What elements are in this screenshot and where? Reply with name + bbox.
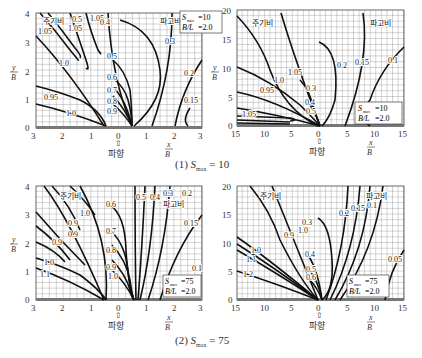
svg-text:1.0: 1.0 (274, 76, 284, 85)
diffraction-diagram: 주기비 0.5 1.05 1.05 1.05 0.4 1.0 0.95 1.0 … (0, 0, 422, 358)
svg-text:1.05: 1.05 (68, 24, 82, 33)
plot-smax75-far: 주기비 0.3 1.0 0.9 1.0 1.1 1.2 0.4 0.5 0.6 … (222, 182, 408, 332)
svg-text:주기비: 주기비 (60, 192, 81, 201)
svg-text:2: 2 (60, 131, 65, 141)
svg-text:1.1: 1.1 (246, 255, 256, 264)
svg-text:B/L: B/L (358, 114, 370, 123)
svg-text:0.05: 0.05 (388, 255, 402, 264)
svg-text:0.3: 0.3 (306, 84, 316, 93)
svg-text:0.6: 0.6 (306, 273, 316, 282)
svg-text:1: 1 (25, 267, 30, 277)
svg-text:=2.0: =2.0 (181, 287, 196, 296)
svg-text:1.0: 1.0 (298, 226, 308, 235)
svg-text:0.2: 0.2 (184, 69, 194, 78)
svg-text:S: S (182, 13, 186, 22)
svg-text:0.5: 0.5 (107, 52, 117, 61)
svg-text:0.6: 0.6 (107, 73, 117, 82)
svg-text:20: 20 (222, 6, 232, 16)
svg-text:0.5: 0.5 (136, 193, 146, 202)
svg-text:0.5: 0.5 (306, 107, 316, 116)
svg-text:S: S (165, 277, 169, 286)
svg-text:=2.0: =2.0 (375, 114, 390, 123)
svg-text:0: 0 (25, 295, 30, 305)
caption-smax75: (2) Smax = 75 (175, 334, 229, 348)
svg-text:10: 10 (222, 64, 232, 74)
caption-prefix: (2) (175, 334, 188, 346)
svg-text:1: 1 (89, 131, 94, 141)
svg-text:5: 5 (228, 267, 233, 277)
svg-text:2: 2 (172, 303, 177, 313)
legend-box: S max =75 B/L =2.0 (347, 275, 389, 297)
svg-text:15: 15 (231, 303, 241, 313)
caption-prefix: (1) (175, 158, 188, 170)
svg-text:주기비: 주기비 (260, 192, 281, 201)
svg-text:y: y (11, 235, 16, 244)
svg-text:2: 2 (172, 131, 177, 141)
plot-smax10-far: 주기비 1.05 1.0 0.95 1.05 0.3 0.4 0.5 0.2 0… (211, 6, 408, 157)
svg-text:0.4: 0.4 (100, 18, 110, 27)
caption-subscript: max (196, 342, 206, 348)
svg-text:10: 10 (260, 129, 270, 139)
svg-text:2: 2 (25, 239, 30, 249)
svg-text:x: x (368, 313, 373, 322)
caption-value: = 75 (209, 334, 229, 346)
svg-text:3: 3 (25, 210, 30, 220)
svg-text:1.2: 1.2 (243, 270, 253, 279)
svg-text:파고비: 파고비 (163, 200, 184, 209)
svg-text:3: 3 (31, 303, 36, 313)
svg-text:0.6: 0.6 (106, 200, 116, 209)
svg-text:2: 2 (60, 303, 65, 313)
svg-text:1: 1 (89, 303, 94, 313)
svg-text:=75: =75 (181, 277, 194, 286)
svg-text:3: 3 (31, 131, 36, 141)
svg-text:y: y (11, 63, 16, 72)
svg-text:파향: 파향 (309, 320, 325, 331)
svg-text:파고비: 파고비 (370, 19, 391, 28)
svg-text:B/L: B/L (165, 287, 177, 296)
svg-text:x: x (166, 313, 171, 322)
svg-text:파향: 파향 (309, 146, 325, 157)
svg-text:주기비: 주기비 (43, 17, 64, 26)
svg-text:0.1: 0.1 (367, 201, 377, 210)
svg-text:0.2: 0.2 (337, 61, 347, 70)
svg-text:=2.0: =2.0 (198, 23, 213, 32)
svg-text:0.15: 0.15 (184, 96, 198, 105)
svg-text:B: B (11, 73, 16, 82)
svg-text:0.9: 0.9 (284, 231, 294, 240)
svg-text:5: 5 (289, 303, 294, 313)
svg-text:0.95: 0.95 (260, 86, 274, 95)
svg-text:15: 15 (222, 35, 232, 45)
svg-text:B: B (165, 323, 170, 332)
caption-smax10: (1) Smax = 10 (175, 158, 229, 172)
svg-text:1: 1 (25, 95, 30, 105)
legend-box: S max =10 B/L =2.0 (180, 11, 222, 33)
svg-text:파향: 파향 (108, 320, 124, 331)
svg-text:0.15: 0.15 (355, 58, 369, 67)
legend-box: S max =10 B/L =2.0 (355, 102, 402, 124)
svg-text:1.0: 1.0 (80, 209, 90, 218)
svg-text:0.9: 0.9 (68, 230, 78, 239)
svg-text:1.1: 1.1 (40, 270, 50, 279)
svg-text:S: S (349, 277, 353, 286)
svg-text:1.0: 1.0 (108, 272, 118, 281)
svg-text:3: 3 (25, 38, 30, 48)
plot-smax10-near: 주기비 0.5 1.05 1.05 1.05 0.4 1.0 0.95 1.0 … (10, 9, 222, 159)
svg-text:파고비: 파고비 (160, 17, 181, 26)
svg-text:0.8: 0.8 (107, 97, 117, 106)
svg-text:1.05: 1.05 (38, 27, 52, 36)
caption-value: = 10 (209, 158, 229, 170)
svg-text:2: 2 (25, 67, 30, 77)
svg-text:=75: =75 (365, 277, 378, 286)
svg-text:1.0: 1.0 (66, 109, 76, 118)
svg-text:10: 10 (370, 303, 380, 313)
svg-text:B: B (11, 245, 16, 254)
svg-text:0.95: 0.95 (44, 93, 58, 102)
svg-text:0.7: 0.7 (106, 227, 116, 236)
svg-text:0.8: 0.8 (106, 246, 116, 255)
svg-text:x: x (166, 140, 171, 149)
svg-text:0.15: 0.15 (351, 204, 365, 213)
svg-text:20: 20 (222, 182, 232, 192)
svg-text:0.9: 0.9 (107, 107, 117, 116)
plot-smax75-near: 주기비 1.0 0.9 0.9 0.9 1.0 1.1 0.6 0.7 0.8 … (10, 182, 203, 332)
legend-box: S max =75 B/L =2.0 (163, 275, 201, 297)
